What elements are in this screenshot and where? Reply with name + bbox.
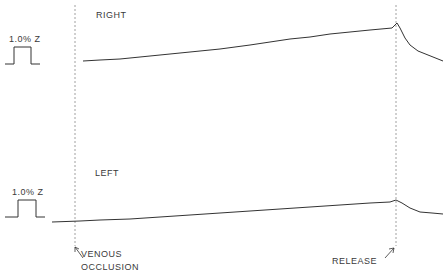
left-label: LEFT xyxy=(95,168,119,178)
calibration-label-top: 1.0% Z xyxy=(9,34,41,44)
left-trace xyxy=(52,200,443,222)
venous-label-line2: OCCLUSION xyxy=(81,262,139,272)
calibration-pulse-bottom xyxy=(5,200,45,217)
venous-label-line1: VENOUS xyxy=(81,249,122,259)
calibration-label-bottom: 1.0% Z xyxy=(12,187,44,197)
right-trace xyxy=(83,23,443,61)
release-arrow-icon xyxy=(385,248,394,258)
release-label: RELEASE xyxy=(332,256,377,266)
calibration-pulse-top xyxy=(5,47,40,64)
plethysmography-figure xyxy=(0,0,444,275)
right-label: RIGHT xyxy=(96,10,127,20)
